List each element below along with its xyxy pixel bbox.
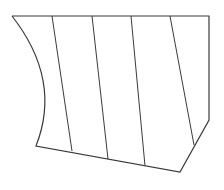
- shape-outline: [12, 16, 209, 172]
- internal-line-1: [52, 16, 72, 151]
- line-diagram: [0, 0, 224, 190]
- internal-lines: [52, 16, 194, 166]
- internal-line-3: [131, 16, 145, 166]
- internal-line-4: [170, 16, 194, 145]
- internal-line-2: [92, 16, 108, 159]
